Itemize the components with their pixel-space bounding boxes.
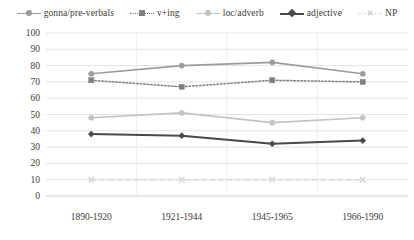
y-axis-tick-label: 90 bbox=[31, 44, 41, 54]
y-axis-tick-label: 60 bbox=[31, 93, 41, 103]
x-axis-tick-label: 1921-1944 bbox=[161, 212, 202, 222]
legend-marker-square-icon bbox=[139, 10, 145, 16]
plot-area: 1009080706050403020100 1890-19201921-194… bbox=[0, 22, 414, 240]
legend-marker-x-icon bbox=[367, 10, 373, 16]
y-axis-tick-label: 0 bbox=[35, 191, 40, 201]
legend-item-label: adjective bbox=[307, 8, 342, 18]
legend-swatch-icon bbox=[17, 8, 41, 18]
legend-item-v-ing[interactable]: v+ing bbox=[130, 8, 180, 18]
chart-legend: gonna/pre-verbalsv+ingloc/adverbadjectiv… bbox=[0, 4, 414, 22]
y-axis-tick-label: 50 bbox=[31, 110, 41, 120]
y-axis-tick-label: 10 bbox=[31, 175, 41, 185]
legend-item-loc-adverb[interactable]: loc/adverb bbox=[196, 8, 264, 18]
legend-item-np[interactable]: NP bbox=[358, 8, 397, 18]
legend-item-gonna-pre-verbals[interactable]: gonna/pre-verbals bbox=[17, 8, 114, 18]
y-axis-tick-label: 20 bbox=[31, 158, 41, 168]
legend-item-label: loc/adverb bbox=[223, 8, 264, 18]
line-chart: gonna/pre-verbalsv+ingloc/adverbadjectiv… bbox=[0, 0, 414, 240]
y-axis-tick-label: 40 bbox=[31, 126, 41, 136]
y-axis-tick-label: 70 bbox=[31, 77, 41, 87]
legend-swatch-icon bbox=[280, 8, 304, 18]
legend-item-adjective[interactable]: adjective bbox=[280, 8, 342, 18]
x-axis-tick-label: 1966-1990 bbox=[342, 212, 383, 222]
legend-item-label: gonna/pre-verbals bbox=[44, 8, 114, 18]
x-axis-tick-label: 1945-1965 bbox=[252, 212, 293, 222]
y-axis-tick-label: 30 bbox=[31, 142, 41, 152]
legend-marker-diamond-icon bbox=[288, 8, 296, 16]
legend-marker-circle-icon bbox=[26, 10, 32, 16]
legend-item-label: NP bbox=[385, 8, 397, 18]
x-axis-labels: 1890-19201921-19441945-19651966-1990 bbox=[46, 22, 408, 240]
legend-swatch-icon bbox=[196, 8, 220, 18]
y-axis-tick-label: 100 bbox=[26, 28, 40, 38]
y-axis-tick-label: 80 bbox=[31, 61, 41, 71]
x-axis-tick-label: 1890-1920 bbox=[71, 212, 112, 222]
legend-item-label: v+ing bbox=[157, 8, 180, 18]
legend-swatch-icon bbox=[358, 8, 382, 18]
legend-marker-circle-icon bbox=[205, 10, 211, 16]
y-axis-labels: 1009080706050403020100 bbox=[0, 22, 44, 240]
legend-swatch-icon bbox=[130, 8, 154, 18]
